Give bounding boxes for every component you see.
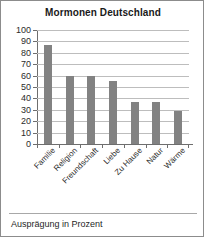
y-axis-tick-label: 60 [21, 71, 31, 80]
chart-caption: Ausprägung in Prozent [11, 219, 103, 229]
y-axis-tick-label: 70 [21, 60, 31, 69]
footer-divider [9, 213, 197, 214]
y-axis-tick-labels: 0102030405060708090100 [1, 30, 31, 144]
chart-title: Mormonen Deutschland [1, 7, 204, 18]
y-axis-tick-label: 80 [21, 48, 31, 57]
y-axis-tick-label: 20 [21, 117, 31, 126]
y-axis-tick-label: 0 [26, 140, 31, 149]
y-axis-tick-label: 90 [21, 37, 31, 46]
y-axis-tick-label: 100 [16, 26, 31, 35]
y-axis-tick-label: 50 [21, 83, 31, 92]
y-axis-tick-label: 40 [21, 94, 31, 103]
bar [44, 45, 52, 144]
x-axis-tick-labels: FamilieReligionFreundschaftLiebeZu Hause… [37, 146, 197, 208]
y-axis-tick-label: 30 [21, 105, 31, 114]
chart-figure: Mormonen Deutschland 0102030405060708090… [0, 0, 204, 237]
y-axis-tick-label: 10 [21, 128, 31, 137]
